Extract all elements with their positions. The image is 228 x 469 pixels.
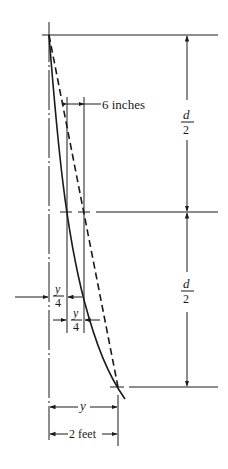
d-half-top-denominator: 2 (183, 123, 189, 137)
d-half-top-numerator: d (183, 107, 190, 122)
six-inches-label: 6 inches (102, 97, 145, 112)
d-half-bottom-denominator: 2 (183, 292, 189, 306)
y-quarter-right-denominator: 4 (73, 320, 79, 334)
y-quarter-left-numerator: y (54, 282, 61, 296)
y-quarter-right-numerator: y (72, 306, 79, 320)
straight-chord (49, 35, 118, 387)
two-feet-label: 2 feet (69, 427, 97, 441)
y-quarter-left-denominator: 4 (55, 296, 61, 310)
y-label: y (78, 398, 86, 413)
d-half-bottom-numerator: d (183, 276, 190, 291)
deflection-diagram: 6 inches d 2 d 2 y 4 y 4 y 2 feet (0, 0, 228, 469)
